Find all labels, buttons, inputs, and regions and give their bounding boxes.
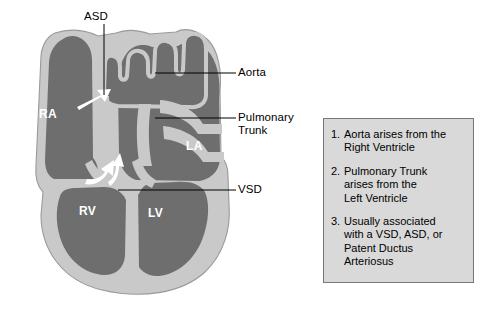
chamber-label-right-ventricle: RV	[79, 204, 96, 218]
callout-label-aorta: Aorta	[238, 66, 266, 79]
info-item-number: 1.	[331, 128, 344, 155]
info-item-text: Aorta arises from the Right Ventricle	[344, 128, 467, 155]
chamber-label-left-ventricle: LV	[148, 206, 163, 220]
info-list-item: 2. Pulmonary Trunk arises from the Left …	[331, 165, 467, 205]
callout-label-asd: ASD	[84, 10, 108, 23]
info-list-item: 1. Aorta arises from the Right Ventricle	[331, 128, 467, 155]
info-item-number: 2.	[331, 165, 344, 205]
info-box-list: 1. Aorta arises from the Right Ventricle…	[324, 119, 473, 269]
callout-label-vsd: VSD	[238, 183, 262, 196]
info-item-text: Usually associated with a VSD, ASD, or P…	[344, 215, 467, 269]
info-item-text: Pulmonary Trunk arises from the Left Ven…	[344, 165, 467, 205]
chamber-label-right-atrium: RA	[39, 107, 57, 121]
interventricular-septum	[126, 186, 139, 278]
heart-diagram-figure: ASD Aorta Pulmonary Trunk VSD RA LA RV L…	[0, 0, 490, 313]
chamber-label-left-atrium: LA	[186, 139, 203, 153]
info-item-number: 3.	[331, 215, 344, 269]
info-box: 1. Aorta arises from the Right Ventricle…	[323, 118, 474, 283]
info-list-item: 3. Usually associated with a VSD, ASD, o…	[331, 215, 467, 269]
callout-label-pulmonary-trunk: Pulmonary Trunk	[238, 111, 294, 137]
